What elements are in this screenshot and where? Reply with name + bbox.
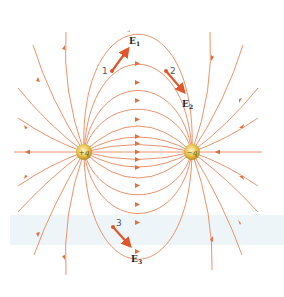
point-label-3: 3: [116, 218, 122, 228]
field-line-arrows: [135, 61, 140, 254]
point-label-2: 2: [170, 66, 176, 76]
vector-label-e3: E3: [131, 254, 142, 265]
vector-e1: 1 E1 ⃗: [102, 30, 140, 76]
charge-label-negative: −q: [187, 149, 198, 157]
svg-text:⃗: ⃗: [127, 30, 130, 32]
charge-positive: +q: [76, 144, 92, 160]
field-lines-connecting: [84, 34, 192, 259]
vector-label-e2: E2: [182, 99, 193, 110]
charge-negative: −q: [184, 144, 200, 160]
point-label-1: 1: [102, 66, 108, 76]
field-lines-outer-left: [14, 32, 84, 275]
vector-label-e1: E1: [129, 36, 140, 47]
charge-label-positive: +q: [79, 149, 90, 157]
vector-e3: 3 E3: [111, 218, 142, 265]
dipole-field-diagram: +q −q 1 E1 ⃗ 2 E2 3 E3: [0, 0, 284, 297]
vector-e2: 2 E2: [164, 66, 193, 110]
field-lines-outer-right: [192, 32, 262, 270]
